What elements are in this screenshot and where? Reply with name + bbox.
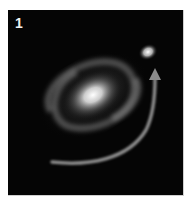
arrowhead-icon (149, 68, 161, 80)
galaxy-illustration (8, 10, 183, 195)
figure-panel: 1 (8, 10, 184, 196)
